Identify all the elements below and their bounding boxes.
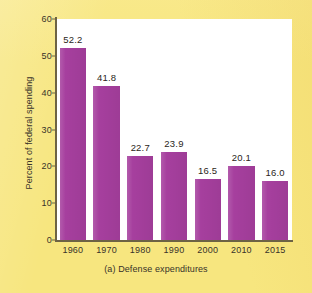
x-axis-tick-label: 1970 (96, 245, 117, 255)
x-axis-line (55, 240, 293, 242)
bar (195, 179, 221, 240)
bar-group (228, 19, 254, 240)
bar (262, 181, 288, 240)
bar-group (195, 19, 221, 240)
y-axis-tick-mark (52, 55, 56, 56)
bar (161, 152, 187, 240)
y-axis-tick-mark (52, 203, 56, 204)
x-axis-tick-label: 2000 (197, 245, 218, 255)
bar-group (93, 19, 119, 240)
y-axis-tick-mark (52, 92, 56, 93)
bar-value-label: 16.5 (198, 165, 217, 176)
y-axis-tick-mark (52, 19, 56, 20)
x-axis-tick-label: 1980 (130, 245, 151, 255)
bar-group (161, 19, 187, 240)
x-axis-tick-label: 2010 (231, 245, 252, 255)
bar-value-label: 23.9 (164, 138, 183, 149)
bar-value-label: 16.0 (265, 167, 284, 178)
defense-expenditures-bar-chart: 0102030405060 19601970198019902000201020… (0, 0, 312, 293)
bar-value-label: 52.2 (63, 34, 82, 45)
x-axis-tick-label: 1990 (164, 245, 185, 255)
bar-value-label: 20.1 (232, 152, 251, 163)
y-axis-tick-mark (52, 129, 56, 130)
bar (228, 166, 254, 240)
bar-group (127, 19, 153, 240)
bar-value-label: 22.7 (131, 142, 150, 153)
chart-caption: (a) Defense expenditures (0, 264, 312, 274)
y-axis-tick-label: 60 (0, 14, 52, 24)
y-axis-tick-label: 0 (0, 235, 52, 245)
y-axis-tick-mark (52, 166, 56, 167)
bar-group (60, 19, 86, 240)
bar (127, 156, 153, 240)
bar (60, 48, 86, 240)
y-axis-title: Percent of federal spending (24, 58, 34, 208)
x-axis-tick-label: 2015 (265, 245, 286, 255)
bar-value-label: 41.8 (97, 72, 116, 83)
y-axis-tick-mark (52, 240, 56, 241)
bar-group (262, 19, 288, 240)
bar (93, 86, 119, 240)
x-axis-tick-label: 1960 (62, 245, 83, 255)
